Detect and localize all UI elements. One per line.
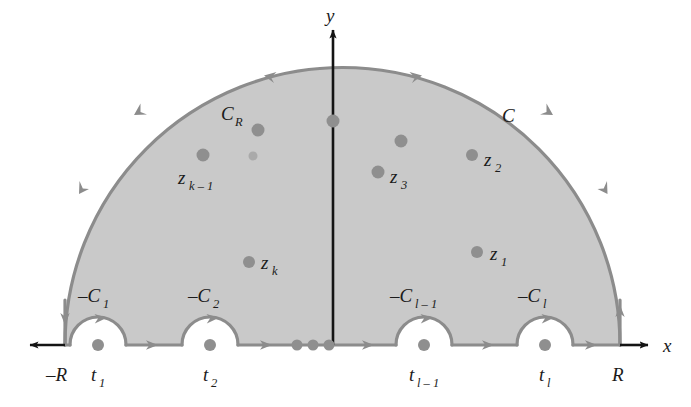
pole-dot-yaxis (327, 115, 340, 128)
z3-base: z (389, 166, 398, 187)
ellipsis-dot-3 (324, 340, 335, 351)
minusC2-sub: 2 (213, 297, 219, 311)
zk-sub: k (272, 264, 278, 278)
zk-base: z (260, 252, 269, 273)
real-pole-tl (539, 339, 551, 351)
pole-dot-upperk (252, 124, 265, 137)
z1-base: z (489, 243, 498, 264)
minusCl-base: –C (517, 285, 541, 306)
zk-1-base: z (177, 167, 186, 188)
minusC1-base: –C (77, 285, 101, 306)
pole-dot-z2 (466, 149, 478, 161)
minus-R-label: –R (45, 364, 68, 385)
x-axis-label: x (662, 335, 672, 356)
minusCl-1-sub: l – 1 (415, 297, 437, 311)
contour-integration-diagram: x y –R R C R C z 1 z 2 z 3 z k z k – 1 –… (0, 0, 691, 407)
axis-ellipsis-dots (292, 340, 335, 351)
t2-base: t (203, 364, 209, 385)
minusC2-base: –C (187, 285, 211, 306)
pole-dot-zk (243, 256, 255, 268)
pole-dot-zk1 (197, 149, 210, 162)
t1-base: t (91, 364, 97, 385)
real-pole-t1 (92, 339, 104, 351)
y-axis-label: y (324, 5, 335, 26)
z2-sub: 2 (495, 161, 501, 175)
pole-dot-z1 (471, 246, 483, 258)
R-label: R (611, 364, 624, 385)
z1-sub: 1 (501, 255, 507, 269)
z2-base: z (483, 149, 492, 170)
tl-1-sub: l – 1 (417, 376, 439, 390)
real-pole-tl-1 (418, 339, 430, 351)
pole-dot-z3 (372, 166, 385, 179)
CR-base: C (221, 103, 234, 124)
real-pole-t2 (204, 339, 216, 351)
t1-sub: 1 (99, 376, 105, 390)
ellipsis-dot-1 (292, 340, 303, 351)
outer-contour-label-C: C (502, 105, 515, 126)
t2-sub: 2 (211, 376, 217, 390)
ellipsis-dot-2 (308, 340, 319, 351)
tl-base: t (539, 364, 545, 385)
z3-sub: 3 (400, 178, 407, 192)
diagram-canvas: x y –R R C R C z 1 z 2 z 3 z k z k – 1 –… (0, 0, 691, 407)
minusCl-sub: l (543, 297, 547, 311)
tl-1-base: t (409, 364, 415, 385)
minusC1-sub: 1 (103, 297, 109, 311)
CR-sub: R (234, 115, 243, 129)
tl-sub: l (547, 376, 551, 390)
pole-dot-faint (249, 152, 258, 161)
zk-1-sub: k – 1 (189, 179, 213, 193)
minusCl-1-base: –C (389, 285, 413, 306)
pole-dot-upper3 (395, 135, 408, 148)
